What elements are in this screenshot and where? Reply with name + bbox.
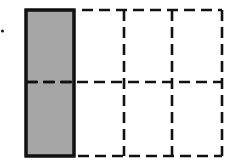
bullet-marker	[1, 29, 4, 32]
fraction-grid-diagram	[0, 0, 240, 167]
